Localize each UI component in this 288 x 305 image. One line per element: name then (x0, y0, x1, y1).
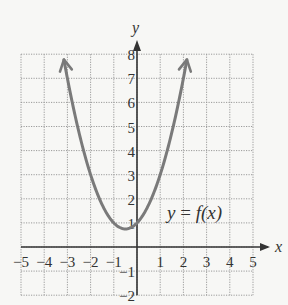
y-axis-label: y (130, 19, 140, 37)
x-tick-label: −3 (59, 254, 75, 270)
x-tick-label: −5 (13, 254, 29, 270)
function-graph: −5−4−3−2−112345−2−112345678 x y y = f(x) (0, 0, 288, 305)
x-tick-label: 4 (226, 254, 234, 270)
y-tick-label: −1 (119, 264, 135, 280)
x-tick-label: −4 (36, 254, 52, 270)
y-tick-label: 6 (128, 95, 136, 111)
y-tick-label: 3 (128, 168, 136, 184)
x-axis-label: x (274, 238, 282, 255)
y-tick-label: 2 (128, 192, 136, 208)
tick-labels: −5−4−3−2−112345−2−112345678 (13, 47, 257, 304)
function-label: y = f(x) (165, 202, 222, 224)
y-tick-label: −2 (119, 288, 135, 304)
x-tick-label: 3 (203, 254, 211, 270)
y-tick-label: 7 (128, 71, 136, 87)
x-tick-label: 1 (156, 254, 164, 270)
x-tick-label: 2 (180, 254, 188, 270)
y-tick-label: 5 (128, 120, 136, 136)
curve-arrowheads (60, 60, 191, 72)
y-tick-label: 4 (128, 144, 136, 160)
x-tick-label: 5 (249, 254, 257, 270)
y-tick-label: 8 (128, 47, 136, 63)
x-tick-label: −2 (83, 254, 99, 270)
